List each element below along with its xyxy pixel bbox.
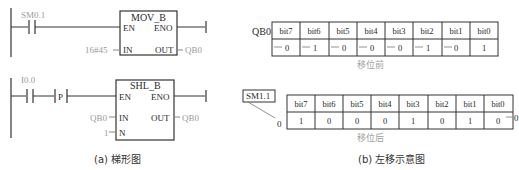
before-value: 1 [426,43,430,53]
after-value: 1 [468,116,472,126]
after-note: 移位后 [357,132,384,143]
shl-b-en: EN [119,92,131,102]
after-value: 0 [355,116,359,126]
mov-b-out-value: QB0 [185,45,203,55]
after-table [287,95,513,129]
mov-b-title: MOV_B [131,12,166,23]
before-header: bit6 [307,26,320,36]
ladder-caption: (a) 梯形图 [94,153,141,165]
shl-b-out-value: QB0 [182,113,200,123]
before-header: bit2 [420,26,433,36]
mov-b-eno: ENO [154,23,173,33]
after-value: 0 [383,116,387,126]
before-header: bit0 [477,26,490,36]
after-header: bit5 [350,99,363,109]
mov-b-out: OUT [155,45,174,55]
after-value: 0 [496,116,500,126]
before-header: bit7 [279,26,292,36]
shl-b-n-value: 1 [104,128,109,138]
sm11-flag: SM1.1 [246,91,270,101]
shl-b-title: SHL_B [130,80,161,91]
after-header: bit4 [378,99,392,109]
before-header: bit3 [392,26,405,36]
before-value: 1 [482,43,486,53]
normally-open-contact-icon [27,89,33,103]
shl-b-n: N [119,128,126,138]
before-header: bit5 [336,26,349,36]
shl-b-eno: ENO [151,92,170,102]
carry-out-value: 0 [277,119,282,129]
after-header: bit2 [435,99,448,109]
after-value: 0 [327,116,331,126]
mov-b-en: EN [123,23,135,33]
before-value: 0 [342,43,346,53]
shift-caption: (b) 左移示意图 [358,153,425,165]
positive-edge-icon: P [55,89,67,103]
before-note: 移位前 [357,59,384,70]
fill-in-value: 0 [514,113,519,123]
contact-label-i00: I0.0 [21,75,36,85]
shl-b-in-value: QB0 [90,113,108,123]
before-value: 0 [398,43,402,53]
after-value: 0 [440,116,444,126]
shl-b-in: IN [119,113,129,123]
carry-arrow-icon [248,102,275,118]
qb0-label: QB0 [252,26,271,37]
after-header: bit1 [463,99,476,109]
before-table [272,22,498,56]
mov-b-in: IN [123,45,133,55]
before-value: 1 [313,43,317,53]
ladder-diagram: SM0.1 MOV_B EN ENO IN OUT 16#45 QB0 I0.0 [11,8,206,165]
before-header: bit4 [364,26,378,36]
after-header: bit6 [322,99,335,109]
contact-label-sm01: SM0.1 [21,10,45,20]
before-value: 0 [454,43,458,53]
before-header: bit1 [449,26,462,36]
normally-open-contact-icon [29,20,35,34]
before-value: 0 [285,43,289,53]
before-value: 0 [370,43,374,53]
after-header: bit0 [491,99,504,109]
after-value: 1 [411,116,415,126]
svg-text:P: P [58,92,63,102]
after-header: bit3 [406,99,419,109]
mov-b-in-value: 16#45 [85,45,108,55]
shift-diagram: QB0 bit7 bit6 bit5 bit4 bit3 bit2 bit1 b… [243,22,519,165]
after-value: 1 [299,116,303,126]
shl-b-out: OUT [151,113,170,123]
after-header: bit7 [294,99,307,109]
